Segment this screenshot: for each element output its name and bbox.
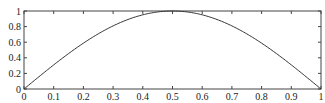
x-tick-label: 0.4 [137, 91, 150, 102]
x-tick-label: 0.2 [77, 91, 90, 102]
x-tick-label: 0.1 [47, 91, 60, 102]
x-tick-label: 0 [22, 91, 27, 102]
y-axis-tick-labels: 00.20.40.60.81 [9, 6, 22, 95]
y-tick-label: 0 [16, 84, 21, 95]
x-tick-label: 0.7 [226, 91, 239, 102]
sine-curve-chart: 00.10.20.30.40.50.60.70.80.91 00.20.40.6… [0, 0, 325, 103]
x-tick-label: 1 [319, 91, 324, 102]
x-tick-label: 0.6 [196, 91, 209, 102]
axes-frame [24, 11, 321, 89]
x-tick-label: 0.8 [255, 91, 268, 102]
x-tick-label: 0.5 [166, 91, 179, 102]
x-tick-label: 0.3 [107, 91, 120, 102]
x-axis-tick-labels: 00.10.20.30.40.50.60.70.80.91 [22, 91, 324, 102]
y-tick-label: 1 [16, 6, 21, 17]
y-tick-label: 0.6 [9, 37, 22, 48]
y-tick-label: 0.4 [9, 52, 22, 63]
x-tick-label: 0.9 [285, 91, 298, 102]
y-tick-label: 0.2 [9, 68, 22, 79]
data-line [24, 11, 321, 89]
y-tick-label: 0.8 [9, 21, 22, 32]
axis-ticks [24, 11, 321, 89]
